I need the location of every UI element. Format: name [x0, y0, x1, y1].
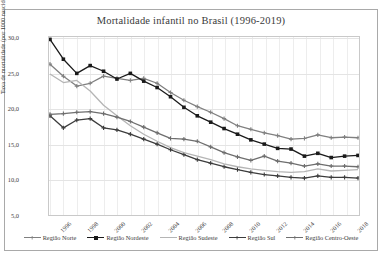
- legend-label-regi-o-sul: Região Sul: [248, 234, 276, 241]
- y-axis-tick-label: 10,0: [0, 176, 19, 183]
- x-axis-tick-label: 2018: [355, 220, 369, 234]
- legend-label-regi-o-centro-oeste: Região Centro-Oeste: [305, 234, 358, 241]
- y-axis-tick-label: 25,0: [0, 69, 19, 76]
- plot-area: [48, 36, 360, 216]
- y-axis-tick-label: 20,0: [0, 105, 19, 112]
- x-axis-tick-label: 2004: [166, 220, 180, 234]
- x-axis-tick-label: 2014: [301, 220, 315, 234]
- chart-title: Mortalidade infantil no Brasil (1996-201…: [5, 15, 377, 26]
- x-axis-tick-label: 2000: [113, 220, 127, 234]
- x-axis-tick-label: 2008: [220, 220, 234, 234]
- legend-label-regi-o-norte: Região Norte: [43, 234, 77, 241]
- chart-legend: Região NorteRegião NordesteRegião Sudest…: [5, 234, 377, 241]
- legend-item-regi-o-norte[interactable]: Região Norte: [24, 234, 77, 241]
- chart-figure: Mortalidade infantil no Brasil (1996-201…: [4, 9, 378, 251]
- legend-label-regi-o-sudeste: Região Sudeste: [179, 234, 218, 241]
- x-axis-tick-label: 2006: [193, 220, 207, 234]
- legend-label-regi-o-nordeste: Região Nordeste: [106, 234, 148, 241]
- legend-swatch-regi-o-sul: [229, 235, 246, 240]
- legend-swatch-regi-o-centro-oeste: [286, 235, 303, 240]
- legend-item-regi-o-sudeste[interactable]: Região Sudeste: [160, 234, 218, 241]
- series-regi-o-nordeste: [49, 38, 359, 160]
- legend-swatch-regi-o-norte: [24, 235, 41, 240]
- legend-item-regi-o-nordeste[interactable]: Região Nordeste: [87, 234, 148, 241]
- series-regi-o-norte: [49, 62, 359, 141]
- x-axis-tick-label: 1996: [59, 220, 73, 234]
- legend-item-regi-o-centro-oeste[interactable]: Região Centro-Oeste: [286, 234, 358, 241]
- y-axis-tick-label: 15,0: [0, 140, 19, 147]
- x-axis-tick-label: 1998: [86, 220, 100, 234]
- x-axis-tick-label: 2010: [247, 220, 261, 234]
- x-axis-tick-label: 2016: [328, 220, 342, 234]
- legend-item-regi-o-sul[interactable]: Região Sul: [229, 234, 276, 241]
- y-axis-tick-label: 30,0: [0, 34, 19, 41]
- legend-swatch-regi-o-nordeste: [87, 235, 104, 240]
- y-axis-tick-label: 5,0: [0, 212, 19, 219]
- x-axis-tick-label: 2012: [274, 220, 288, 234]
- legend-swatch-regi-o-sudeste: [160, 235, 177, 240]
- series-lines: [49, 37, 359, 216]
- x-axis-tick-label: 2002: [139, 220, 153, 234]
